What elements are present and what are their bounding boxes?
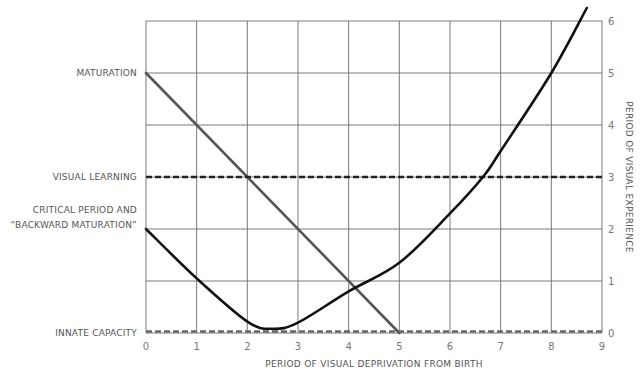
series-labels: MATURATIONVISUAL LEARNINGCRITICAL PERIOD… xyxy=(10,68,137,338)
series-label: MATURATION xyxy=(76,68,137,78)
x-tick-label: 8 xyxy=(548,341,554,352)
x-axis-ticks: 0123456789 xyxy=(143,341,605,352)
chart-svg: 0123456789 0123456 MATURATIONVISUAL LEAR… xyxy=(0,0,643,376)
x-tick-label: 3 xyxy=(295,341,301,352)
series-line-0 xyxy=(146,73,399,333)
series-layer xyxy=(146,8,602,333)
chart: 0123456789 0123456 MATURATIONVISUAL LEAR… xyxy=(0,0,643,376)
y-tick-label: 6 xyxy=(608,16,614,27)
x-tick-label: 1 xyxy=(193,341,199,352)
x-tick-label: 4 xyxy=(345,341,351,352)
y-tick-label: 2 xyxy=(608,224,614,235)
x-tick-label: 2 xyxy=(244,341,250,352)
y-tick-label: 5 xyxy=(608,68,614,79)
x-tick-label: 0 xyxy=(143,341,149,352)
y-tick-label: 3 xyxy=(608,172,614,183)
series-label: CRITICAL PERIOD AND xyxy=(33,205,137,215)
series-label: VISUAL LEARNING xyxy=(53,172,137,182)
series-label: INNATE CAPACITY xyxy=(55,328,137,338)
y-tick-label: 1 xyxy=(608,276,614,287)
x-tick-label: 7 xyxy=(497,341,503,352)
x-axis-title: PERIOD OF VISUAL DEPRIVATION FROM BIRTH xyxy=(265,359,483,369)
y-axis-ticks: 0123456 xyxy=(608,16,614,339)
y-tick-label: 4 xyxy=(608,120,614,131)
x-tick-label: 5 xyxy=(396,341,402,352)
x-tick-label: 6 xyxy=(447,341,453,352)
x-tick-label: 9 xyxy=(599,341,605,352)
y-axis-title: PERIOD OF VISUAL EXPERIENCE xyxy=(624,101,634,253)
series-label: “BACKWARD MATURATION” xyxy=(10,220,137,230)
y-tick-label: 0 xyxy=(608,328,614,339)
